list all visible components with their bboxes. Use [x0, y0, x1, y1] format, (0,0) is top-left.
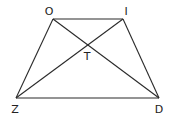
point-label-I: I [124, 5, 127, 18]
segment-ID [123, 19, 159, 98]
point-label-T: T [83, 50, 91, 63]
diagram-svg: OIZDT [0, 0, 172, 116]
trapezoid-diagram: OIZDT [0, 0, 172, 116]
segment-ZO [16, 19, 53, 98]
point-label-O: O [45, 5, 54, 18]
point-label-D: D [155, 103, 163, 116]
point-label-Z: Z [11, 103, 19, 116]
